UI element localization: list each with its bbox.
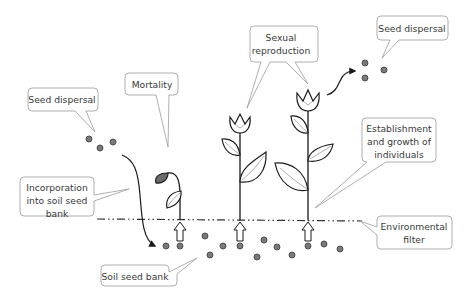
seeds-dispersal-right: [362, 60, 387, 81]
callout-seed-dispersal-left: Seed dispersal: [28, 88, 98, 132]
callout-soil-seed-bank: Soil seed bank: [101, 258, 197, 286]
seeds-dispersal-left: [86, 136, 116, 151]
label-incorporation-3: bank: [46, 208, 69, 219]
label-establishment-1: Establishment: [366, 123, 432, 134]
germination-arrow-3: [302, 222, 314, 241]
germination-arrow-2: [234, 222, 246, 241]
callout-environmental-filter: Environmental filter: [360, 216, 452, 249]
tulip-flower-icon: [230, 114, 250, 133]
label-seed-dispersal-right: Seed dispersal: [378, 23, 445, 34]
label-seed-dispersal-left: Seed dispersal: [28, 94, 95, 105]
label-environmental-filter-1: Environmental: [381, 221, 448, 232]
label-sexual-reproduction-1: Sexual: [266, 32, 297, 43]
callout-seed-dispersal-right: Seed dispersal: [377, 16, 448, 58]
callout-incorporation: Incorporation into soil seed bank: [20, 177, 129, 219]
dispersal-arrow: [327, 71, 355, 95]
label-incorporation-1: Incorporation: [26, 182, 88, 193]
tulip-flower-icon: [297, 90, 319, 111]
germination-arrow-1: [174, 222, 186, 241]
label-mortality: Mortality: [132, 79, 173, 90]
label-sexual-reproduction-2: reproduction: [252, 45, 311, 56]
label-soil-seed-bank: Soil seed bank: [102, 271, 170, 282]
callout-mortality: Mortality: [125, 73, 178, 147]
soil-seed-bank-seeds: [163, 233, 343, 260]
environmental-filter-line: [97, 219, 362, 221]
incorporation-arrow: [122, 155, 155, 246]
label-establishment-3: individuals: [374, 149, 424, 160]
dying-plant: [156, 173, 181, 219]
label-incorporation-2: into soil seed: [27, 195, 88, 206]
callout-establishment: Establishment and growth of individuals: [315, 118, 436, 208]
life-cycle-diagram: Seed dispersal Mortality Sexual reproduc…: [0, 0, 471, 302]
dead-leaf-icon: [156, 173, 168, 183]
label-establishment-2: and growth of: [367, 136, 432, 147]
label-environmental-filter-2: filter: [403, 234, 425, 245]
flowering-plant-1: [222, 114, 266, 220]
